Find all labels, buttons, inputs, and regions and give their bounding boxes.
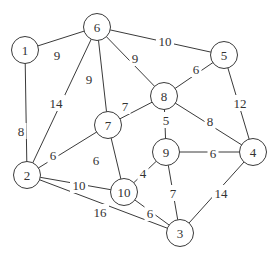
edge-weight-label: 10 — [159, 34, 172, 49]
node-label: 2 — [24, 168, 31, 183]
node-3: 3 — [167, 220, 194, 247]
node-label: 8 — [161, 89, 168, 104]
node-10: 10 — [111, 179, 138, 206]
node-label: 1 — [22, 43, 29, 58]
edge-weight-label: 7 — [170, 186, 177, 201]
node-2: 2 — [14, 162, 41, 189]
node-label: 3 — [177, 226, 184, 241]
edge-weight-label: 6 — [50, 148, 57, 163]
edge-weight-label: 5 — [163, 113, 170, 128]
edge-6-7 — [97, 27, 108, 125]
edge-1-2 — [25, 50, 27, 175]
node-1: 1 — [12, 37, 39, 64]
node-5: 5 — [211, 42, 238, 69]
node-9: 9 — [153, 139, 180, 166]
edge-weight-label: 8 — [207, 114, 214, 129]
edge-weight-label: 14 — [50, 96, 64, 111]
edge-weight-label: 6 — [193, 62, 200, 77]
nodes-layer: 12345678910 — [12, 14, 267, 247]
edge-weight-label: 16 — [94, 205, 108, 220]
edge-weight-label: 9 — [86, 72, 93, 87]
node-label: 7 — [105, 118, 112, 133]
node-label: 6 — [94, 20, 101, 35]
edge-weight-label: 9 — [132, 51, 139, 66]
edge-weight-label: 9 — [54, 48, 61, 63]
node-4: 4 — [240, 139, 267, 166]
node-6: 6 — [84, 14, 111, 41]
edge-weight-label: 10 — [73, 178, 86, 193]
edge-weight-label: 12 — [234, 96, 247, 111]
node-label: 10 — [118, 185, 131, 200]
node-8: 8 — [151, 83, 178, 110]
edge-weight-label: 6 — [210, 146, 217, 161]
node-label: 9 — [163, 145, 170, 160]
edge-weight-label: 6 — [93, 153, 100, 168]
edge-weight-label: 8 — [18, 124, 25, 139]
edge-weight-label: 4 — [140, 166, 147, 181]
edge-weight-label: 6 — [147, 206, 154, 221]
node-label: 5 — [221, 48, 228, 63]
edge-weight-label: 14 — [215, 186, 229, 201]
node-7: 7 — [95, 112, 122, 139]
node-label: 4 — [250, 145, 257, 160]
weighted-graph: 98149910612758666471410166 12345678910 — [0, 0, 275, 256]
edge-weight-label: 7 — [122, 99, 129, 114]
